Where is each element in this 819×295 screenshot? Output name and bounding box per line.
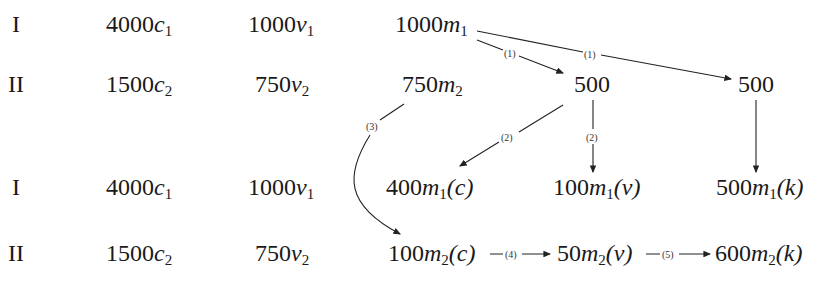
step-label-1a: (1) bbox=[504, 48, 516, 60]
step-label-2b: (2) bbox=[586, 132, 598, 144]
step-label-5: (5) bbox=[662, 249, 674, 261]
step-label-2a: (2) bbox=[501, 132, 513, 144]
step-label-1b: (1) bbox=[584, 49, 596, 61]
step-label-4: (4) bbox=[505, 249, 517, 261]
flow-arrows: (1) (1) (2) (2) (3) (4) (5) bbox=[0, 0, 819, 295]
step-label-3: (3) bbox=[366, 121, 378, 133]
arrow-step3-curve bbox=[354, 104, 404, 234]
